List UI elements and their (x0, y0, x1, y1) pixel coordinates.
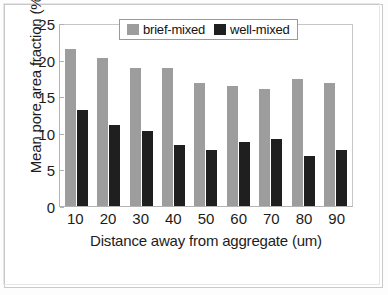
x-tick-label: 60 (222, 210, 255, 227)
chart-legend: brief-mixed well-mixed (119, 19, 298, 40)
bar-brief-mixed-10 (65, 49, 76, 206)
y-tick-mark (60, 207, 64, 208)
y-tick-label: 0 (29, 200, 55, 215)
legend-entry-brief-mixed: brief-mixed (127, 22, 205, 37)
x-tick-label: 90 (320, 210, 353, 227)
bar-group (157, 25, 189, 206)
y-tick-label: 10 (29, 126, 55, 141)
bar-brief-mixed-30 (130, 68, 141, 206)
bar-groups (60, 25, 352, 206)
bar-brief-mixed-40 (162, 68, 173, 206)
bar-brief-mixed-90 (324, 83, 335, 206)
y-tick-label: 15 (29, 90, 55, 105)
y-axis-tick-labels: 0510152025 (25, 0, 55, 295)
bar-group (92, 25, 124, 206)
bar-brief-mixed-80 (292, 79, 303, 206)
bar-group (255, 25, 287, 206)
plot-area (59, 24, 353, 207)
y-tick-mark (60, 134, 64, 135)
x-tick-label: 10 (59, 210, 92, 227)
bar-group (60, 25, 92, 206)
x-tick-label: 80 (288, 210, 321, 227)
bar-well-mixed-40 (174, 145, 185, 206)
bar-brief-mixed-50 (194, 83, 205, 206)
legend-swatch-icon-well-mixed (214, 24, 226, 35)
y-tick-label: 5 (29, 163, 55, 178)
bar-brief-mixed-20 (97, 58, 108, 206)
figure-container: Mean pore area fraction (%) 0510152025 b… (0, 0, 388, 295)
bar-brief-mixed-60 (227, 86, 238, 206)
bar-well-mixed-90 (336, 150, 347, 206)
x-tick-label: 40 (157, 210, 190, 227)
bar-well-mixed-20 (109, 125, 120, 206)
bar-well-mixed-30 (142, 131, 153, 206)
y-tick-label: 20 (29, 53, 55, 68)
y-tick-mark (60, 61, 64, 62)
bar-brief-mixed-70 (259, 89, 270, 206)
x-tick-label: 20 (92, 210, 125, 227)
bar-group (125, 25, 157, 206)
y-tick-label: 25 (29, 17, 55, 32)
bar-well-mixed-80 (304, 156, 315, 207)
legend-swatch-icon-brief-mixed (127, 24, 139, 35)
x-tick-label: 30 (124, 210, 157, 227)
y-tick-mark (60, 24, 64, 25)
x-axis-label: Distance away from aggregate (um) (59, 232, 353, 249)
bar-group (287, 25, 319, 206)
bar-well-mixed-10 (77, 110, 88, 206)
legend-entry-well-mixed: well-mixed (214, 22, 289, 37)
x-axis-tick-labels: 102030405060708090 (59, 210, 353, 227)
bar-group (320, 25, 352, 206)
bar-group (190, 25, 222, 206)
bar-well-mixed-70 (271, 139, 282, 206)
plot-inner (60, 25, 352, 206)
legend-label-brief-mixed: brief-mixed (143, 22, 205, 37)
x-tick-label: 70 (255, 210, 288, 227)
x-tick-label: 50 (190, 210, 223, 227)
y-tick-mark (60, 97, 64, 98)
y-tick-mark (60, 170, 64, 171)
legend-label-well-mixed: well-mixed (230, 22, 289, 37)
bar-well-mixed-50 (206, 150, 217, 206)
bar-group (222, 25, 254, 206)
bar-well-mixed-60 (239, 142, 250, 206)
